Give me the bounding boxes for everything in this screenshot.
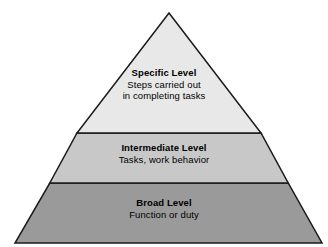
tier-specific-desc-line-1: Steps carried out — [0, 79, 328, 91]
tier-specific-desc-line-2: in completing tasks — [0, 90, 328, 102]
tier-broad-title: Broad Level — [0, 197, 328, 209]
pyramid-diagram: Specific Level Steps carried out in comp… — [0, 0, 328, 247]
tier-broad-desc-line-1: Function or duty — [0, 209, 328, 221]
tier-intermediate-title: Intermediate Level — [0, 142, 328, 154]
pyramid-tier-intermediate-label: Intermediate Level Tasks, work behavior — [0, 142, 328, 165]
pyramid-tier-broad-label: Broad Level Function or duty — [0, 197, 328, 220]
tier-specific-title: Specific Level — [0, 67, 328, 79]
tier-intermediate-desc-line-1: Tasks, work behavior — [0, 154, 328, 166]
pyramid-tier-specific-label: Specific Level Steps carried out in comp… — [0, 67, 328, 102]
